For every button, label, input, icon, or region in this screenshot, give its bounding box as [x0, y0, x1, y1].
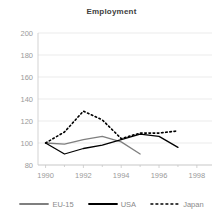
legend-item-eu-15[interactable]: EU-15 — [19, 200, 73, 209]
data-series — [46, 111, 178, 154]
y-tick-label: 80 — [25, 161, 33, 170]
y-tick-label: 120 — [20, 117, 33, 126]
x-tick-label: 1998 — [189, 171, 206, 180]
y-tick-label: 200 — [20, 29, 33, 38]
series-line-japan — [46, 111, 178, 143]
chart-legend: EU-15USAJapan — [0, 194, 223, 214]
y-tick-label: 180 — [20, 51, 33, 60]
chart-plot-area: 80100120140160180200 1990199219941996199… — [0, 0, 223, 218]
legend-label: EU-15 — [52, 200, 73, 209]
legend-item-usa[interactable]: USA — [88, 200, 136, 209]
gridlines — [38, 33, 212, 165]
legend-item-japan[interactable]: Japan — [150, 200, 203, 209]
y-tick-label: 140 — [20, 95, 33, 104]
legend-label: USA — [121, 200, 136, 209]
legend-swatch-dashed — [150, 200, 180, 208]
x-axis-tick-labels: 19901992199419961998 — [37, 165, 205, 180]
employment-chart: Employment 80100120140160180200 19901992… — [0, 0, 223, 218]
legend-swatch-solid — [19, 200, 49, 208]
y-tick-label: 100 — [20, 139, 33, 148]
legend-label: Japan — [183, 200, 203, 209]
x-tick-label: 1992 — [75, 171, 92, 180]
y-axis-tick-labels: 80100120140160180200 — [20, 29, 33, 170]
legend-swatch-solid — [88, 200, 118, 208]
x-tick-label: 1996 — [151, 171, 168, 180]
y-tick-label: 160 — [20, 73, 33, 82]
x-tick-label: 1994 — [113, 171, 130, 180]
x-tick-label: 1990 — [37, 171, 54, 180]
